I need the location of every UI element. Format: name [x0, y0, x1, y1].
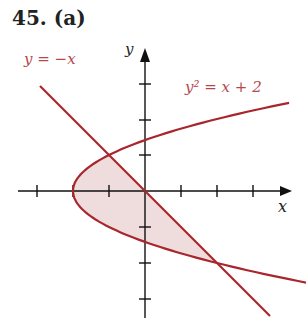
graph: [0, 0, 306, 330]
x-axis-arrow-icon: [280, 186, 292, 196]
line-curve: [40, 86, 270, 316]
axes: [18, 60, 284, 318]
y-axis-arrow-icon: [140, 48, 150, 62]
